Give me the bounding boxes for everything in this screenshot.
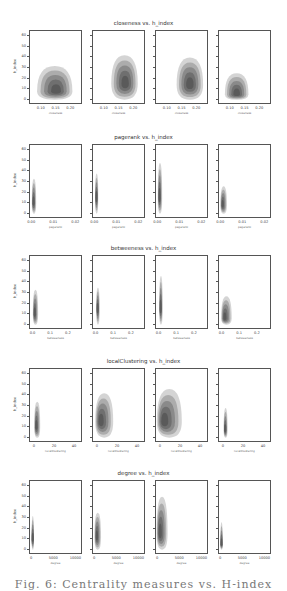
x-axis-label: localClustering xyxy=(92,449,145,453)
y-tick-mark xyxy=(216,426,218,427)
x-tick-label: 20 xyxy=(44,444,64,448)
x-tick-label: 0.20 xyxy=(186,106,206,110)
y-tick-mark xyxy=(27,303,29,304)
y-tick-mark xyxy=(216,56,218,57)
subplot-panel xyxy=(218,368,271,442)
kde-density-plot xyxy=(30,31,82,104)
x-axis-label: pagerank xyxy=(29,225,82,229)
y-tick-mark xyxy=(216,549,218,550)
subplot-panel xyxy=(218,30,271,104)
y-tick-mark xyxy=(153,170,155,171)
y-tick-mark xyxy=(216,303,218,304)
subplot-panel xyxy=(92,30,145,104)
x-tick-label: 0.02 xyxy=(254,220,274,224)
y-tick-mark xyxy=(90,160,92,161)
y-tick-mark xyxy=(90,303,92,304)
x-tick-label: 0 xyxy=(210,556,230,560)
y-tick-label: 0 xyxy=(16,435,26,439)
x-tick-label: 5000 xyxy=(43,556,63,560)
y-tick-mark xyxy=(216,292,218,293)
y-tick-label: 10 xyxy=(16,200,26,204)
y-tick-mark xyxy=(27,99,29,100)
subplot-row-title: betweeness vs. h_index xyxy=(0,245,287,251)
y-tick-mark xyxy=(153,313,155,314)
y-tick-label: 0 xyxy=(16,97,26,101)
x-tick-label: 10000 xyxy=(65,556,85,560)
y-tick-mark xyxy=(216,260,218,261)
y-tick-mark xyxy=(90,394,92,395)
y-tick-label: 60 xyxy=(16,147,26,151)
x-tick-label: 5000 xyxy=(169,556,189,560)
y-tick-mark xyxy=(153,506,155,507)
subplot-panel xyxy=(218,255,271,329)
x-tick-label: 0 xyxy=(87,444,107,448)
y-tick-mark xyxy=(153,281,155,282)
x-tick-label: 0.01 xyxy=(106,220,126,224)
x-tick-label: 0.01 xyxy=(169,220,189,224)
y-tick-mark xyxy=(27,313,29,314)
y-tick-mark xyxy=(216,181,218,182)
x-tick-label: 0.00 xyxy=(210,220,230,224)
kde-density-plot xyxy=(156,31,208,104)
y-tick-mark xyxy=(153,528,155,529)
y-tick-mark xyxy=(90,281,92,282)
y-tick-mark xyxy=(27,394,29,395)
y-tick-mark xyxy=(216,170,218,171)
y-tick-mark xyxy=(90,46,92,47)
y-tick-label: 20 xyxy=(16,526,26,530)
subplot-panel xyxy=(155,255,208,329)
y-tick-mark xyxy=(27,437,29,438)
y-tick-label: 60 xyxy=(16,258,26,262)
x-tick-label: 20 xyxy=(170,444,190,448)
y-tick-mark xyxy=(90,181,92,182)
y-axis-label: h_index xyxy=(13,394,17,414)
y-tick-mark xyxy=(216,506,218,507)
y-tick-mark xyxy=(27,46,29,47)
y-tick-label: 40 xyxy=(16,504,26,508)
y-tick-mark xyxy=(90,485,92,486)
y-tick-mark xyxy=(153,384,155,385)
x-tick-label: 0.00 xyxy=(21,220,41,224)
y-tick-mark xyxy=(153,324,155,325)
y-tick-mark xyxy=(27,528,29,529)
y-tick-mark xyxy=(90,437,92,438)
y-tick-mark xyxy=(216,416,218,417)
y-tick-mark xyxy=(90,88,92,89)
y-tick-mark xyxy=(90,405,92,406)
kde-density-plot xyxy=(156,369,208,442)
x-tick-label: 0 xyxy=(21,556,41,560)
y-tick-label: 20 xyxy=(16,190,26,194)
y-tick-mark xyxy=(27,260,29,261)
subplot-panel xyxy=(218,144,271,218)
subplot-panel xyxy=(29,255,82,329)
x-tick-label: 5000 xyxy=(106,556,126,560)
y-tick-mark xyxy=(27,416,29,417)
y-tick-mark xyxy=(90,99,92,100)
subplot-panel xyxy=(155,144,208,218)
y-tick-mark xyxy=(27,149,29,150)
subplot-panel xyxy=(92,368,145,442)
y-tick-mark xyxy=(90,496,92,497)
y-tick-mark xyxy=(153,46,155,47)
y-tick-mark xyxy=(27,281,29,282)
y-tick-mark xyxy=(153,99,155,100)
y-tick-mark xyxy=(27,485,29,486)
x-tick-label: 40 xyxy=(253,444,273,448)
y-tick-mark xyxy=(90,324,92,325)
y-tick-mark xyxy=(27,67,29,68)
y-tick-mark xyxy=(153,405,155,406)
subplot-panel xyxy=(92,480,145,554)
x-tick-label: 0.20 xyxy=(60,106,80,110)
y-axis-label: h_index xyxy=(13,170,17,190)
y-tick-label: 40 xyxy=(16,168,26,172)
y-tick-label: 50 xyxy=(16,382,26,386)
y-tick-mark xyxy=(153,303,155,304)
y-tick-mark xyxy=(153,260,155,261)
y-tick-mark xyxy=(90,202,92,203)
y-tick-mark xyxy=(153,35,155,36)
y-tick-mark xyxy=(153,67,155,68)
subplot-panel xyxy=(29,144,82,218)
y-tick-mark xyxy=(216,88,218,89)
x-tick-label: 40 xyxy=(64,444,84,448)
y-tick-mark xyxy=(153,517,155,518)
